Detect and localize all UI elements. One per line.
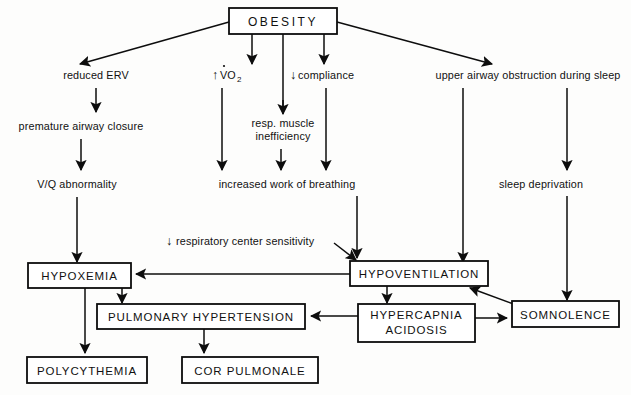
node-pulmonary-hypertension: PULMONARY HYPERTENSION [97,304,305,329]
obesity-outgoing-edges [80,22,492,114]
node-hypoventilation: HYPOVENTILATION [350,261,488,286]
sleep-deprivation-label: sleep deprivation [499,178,583,190]
node-obesity: OBESITY [229,8,337,34]
compliance-decrease-arrow-icon: ↓ [290,68,296,82]
polycythemia-label: POLYCYTHEMIA [37,365,137,377]
hypoventilation-label: HYPOVENTILATION [359,268,480,280]
increased-work-label: increased work of breathing [219,178,356,190]
cor-pulmonale-label: COR PULMONALE [194,365,305,377]
acidosis-label: ACIDOSIS [385,324,447,336]
premature-airway-closure-label: premature airway closure [19,120,144,132]
vq-abnormality-label: V/Q abnormality [37,178,117,190]
flowchart-canvas: OBESITY reduced ERV premature airway clo… [0,0,631,395]
somnolence-label: SOMNOLENCE [520,309,611,321]
node-cor-pulmonale: COR PULMONALE [182,357,318,383]
hypercapnia-label: HYPERCAPNIA [370,309,462,321]
vo2-increase-arrow-icon: ↑ [212,68,218,82]
resp-center-label: respiratory center sensitivity [176,235,315,247]
upper-airway-label: upper airway obstruction during sleep [435,69,620,81]
edge-resp-center-to-hypoventilation [334,243,356,260]
compliance-node: ↓ compliance [290,68,354,82]
resp-center-decrease-arrow-icon: ↓ [166,234,172,248]
pulmonary-hypertension-label: PULMONARY HYPERTENSION [108,311,294,323]
obesity-label: OBESITY [248,15,318,29]
vo2-subscript: 2 [237,75,242,84]
node-hypercapnia-acidosis: HYPERCAPNIA ACIDOSIS [358,304,475,342]
node-polycythemia: POLYCYTHEMIA [27,357,147,383]
vo2-node: ↑ VO 2 [212,65,242,84]
resp-muscle-line1: resp. muscle [251,117,314,129]
obesity-respiratory-flowchart: OBESITY reduced ERV premature airway clo… [0,0,631,395]
edge-obesity-to-reduced-erv [80,22,229,64]
compliance-label: compliance [298,69,354,81]
edge-somnolence-to-hypoventilation [470,288,516,305]
edge-obesity-to-upper-airway [337,22,492,64]
vo2-label: VO [220,69,236,81]
vo2-dot-icon [223,65,225,67]
hypoxemia-label: HYPOXEMIA [41,270,117,282]
node-somnolence: SOMNOLENCE [512,301,619,327]
node-hypoxemia: HYPOXEMIA [28,263,131,288]
resp-center-node: ↓ respiratory center sensitivity [166,234,315,248]
resp-muscle-line2: inefficiency [255,130,310,142]
reduced-erv-label: reduced ERV [63,69,129,81]
